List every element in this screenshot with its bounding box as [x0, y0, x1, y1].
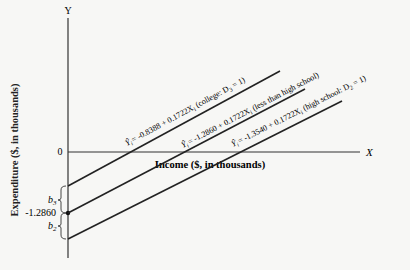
x-axis-letter: X	[365, 146, 374, 158]
brace-label-b2: b2	[48, 220, 57, 233]
svg-text:Ŷi= -0.8388 + 0.1722Xi (colleg: Ŷi= -0.8388 + 0.1722Xi (college: D3 = 1)	[123, 74, 247, 148]
brace-b2	[58, 213, 66, 239]
y-tick-intercept: -1.2860	[25, 207, 56, 218]
brace-b3	[58, 186, 66, 213]
x-axis-title: Income ($, in thousands)	[155, 159, 266, 171]
line-high-school	[68, 101, 342, 239]
chart-canvas: Y X Income ($, in thousands) 0 -1.2860 b…	[0, 0, 410, 270]
y-tick-zero: 0	[58, 146, 63, 157]
y-axis-letter: Y	[64, 5, 71, 16]
brace-label-b3: b3	[48, 194, 57, 207]
equation-college: Ŷi= -0.8388 + 0.1722Xi (college: D3 = 1)	[123, 74, 247, 148]
